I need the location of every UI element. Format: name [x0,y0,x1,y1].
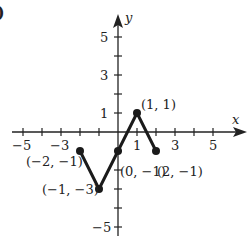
y-axis [113,14,123,236]
panel-marker: ) [0,3,5,22]
y-tick-label: 3 [100,68,108,83]
point-label: (1, 1) [141,97,176,112]
data-point [133,109,141,117]
point-label: (−2, −1) [26,154,83,169]
y-tick-label: 5 [100,30,108,45]
x-tick-label: 5 [209,138,217,153]
y-tick-label: 1 [100,106,108,121]
x-tick-label: −3 [50,138,69,153]
x-axis-label: x [232,112,240,127]
point-label: (2, −1) [157,164,203,179]
x-tick-label: −5 [12,138,31,153]
y-axis-label: y [124,10,133,25]
point-label: (−1, −3) [42,182,99,197]
data-point [114,147,122,155]
x-tick-label: 3 [171,138,179,153]
x-tick-label: 1 [133,138,141,153]
y-tick-label: −5 [92,220,111,235]
graph: ) [0,0,251,240]
data-point [152,147,160,155]
